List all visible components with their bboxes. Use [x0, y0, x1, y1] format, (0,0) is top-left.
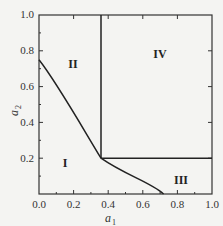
x-tick-label: 0.8	[171, 198, 185, 210]
x-tick-label: 0.0	[32, 198, 46, 210]
region-label-4: IV	[153, 47, 167, 61]
y-tick-label: 0.8	[20, 44, 34, 56]
x-tick-label: 0.4	[101, 198, 115, 210]
svg-text:a: a	[105, 211, 111, 225]
x-ticks	[56, 15, 194, 194]
region-label-1: I	[63, 156, 68, 170]
y-tick-label: 1.0	[20, 8, 34, 20]
phase-diagram-chart: I II III IV 0.0 0.2 0.4 0.6 0.8 1.0 0.2 …	[0, 0, 223, 226]
svg-text:1: 1	[112, 218, 116, 226]
svg-text:2: 2	[14, 105, 23, 109]
region-label-3: III	[174, 173, 188, 187]
y-tick-label: 0.4	[20, 116, 34, 128]
region-label-2: II	[68, 57, 78, 71]
x-tick-label: 1.0	[205, 198, 219, 210]
x-axis-title: a 1	[105, 211, 116, 226]
y-ticks	[39, 33, 212, 176]
y-tick-label: 0.2	[20, 152, 34, 164]
svg-text:a: a	[7, 110, 21, 116]
x-tick-label: 0.6	[136, 198, 150, 210]
x-tick-label: 0.2	[67, 198, 81, 210]
y-tick-label: 0.6	[20, 80, 34, 92]
y-axis-title: a 2	[7, 105, 23, 116]
